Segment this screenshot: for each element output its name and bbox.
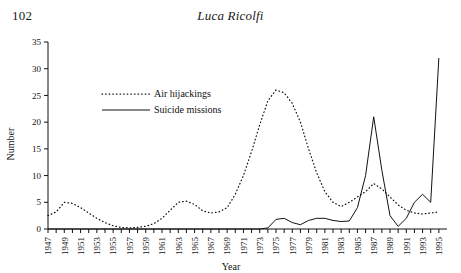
- x-tick-label: 1955: [108, 237, 118, 256]
- y-axis: 05101520253035: [32, 37, 48, 234]
- x-tick-label: 1977: [288, 237, 298, 256]
- running-head: Luca Ricolfi: [0, 8, 461, 24]
- y-tick-label: 30: [32, 64, 42, 74]
- y-tick-label: 15: [32, 144, 42, 154]
- x-tick-label: 1993: [418, 237, 428, 256]
- x-tick-label: 1949: [60, 237, 70, 256]
- y-tick-label: 35: [32, 37, 42, 47]
- series-solid: [48, 58, 439, 229]
- y-tick-label: 5: [37, 197, 42, 207]
- page-canvas: 102 Luca Ricolfi 05101520253035 19471949…: [0, 0, 461, 273]
- y-tick-label: 25: [32, 91, 42, 101]
- figure-chart: 05101520253035 1947194919511953195519571…: [0, 24, 461, 273]
- y-tick-label: 10: [32, 171, 42, 181]
- x-axis: 1947194919511953195519571959196119631965…: [43, 229, 447, 255]
- x-tick-label: 1981: [320, 237, 330, 255]
- y-tick-label: 20: [32, 117, 42, 127]
- x-tick-label: 1973: [255, 237, 265, 256]
- x-tick-label: 1957: [125, 237, 135, 256]
- x-tick-label: 1963: [174, 237, 184, 256]
- y-axis-title: Number: [5, 127, 16, 160]
- x-tick-label: 1979: [304, 237, 314, 256]
- x-tick-label: 1951: [76, 237, 86, 255]
- x-tick-label: 1961: [157, 237, 167, 255]
- x-tick-label: 1947: [43, 237, 53, 256]
- x-tick-label: 1953: [92, 237, 102, 256]
- x-tick-label: 1967: [206, 237, 216, 256]
- y-tick-label: 0: [37, 224, 42, 234]
- x-tick-label: 1975: [271, 237, 281, 256]
- x-tick-label: 1983: [336, 237, 346, 256]
- x-tick-label: 1995: [434, 237, 444, 256]
- legend-label: Suicide missions: [154, 104, 222, 115]
- x-tick-label: 1987: [369, 237, 379, 256]
- x-tick-label: 1969: [222, 237, 232, 256]
- x-tick-label: 1959: [141, 237, 151, 256]
- data-series-group: [48, 58, 439, 229]
- x-tick-label: 1971: [239, 237, 249, 255]
- legend-label: Air hijackings: [154, 88, 211, 99]
- x-tick-label: 1989: [385, 237, 395, 256]
- chart-svg: 05101520253035 1947194919511953195519571…: [0, 24, 461, 273]
- x-tick-label: 1965: [190, 237, 200, 256]
- x-axis-title: Year: [222, 261, 241, 272]
- x-tick-label: 1985: [353, 237, 363, 256]
- chart-legend: Air hijackingsSuicide missions: [102, 88, 222, 115]
- x-tick-label: 1991: [402, 237, 412, 255]
